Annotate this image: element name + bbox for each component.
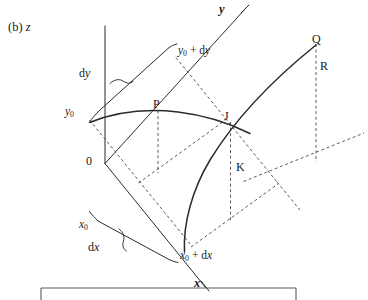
curve-through-J-Q <box>184 45 316 252</box>
dy-label: dy <box>79 67 90 79</box>
x-axis-label: x <box>194 277 200 290</box>
y-axis-label: y <box>219 3 225 16</box>
dx-brace <box>119 229 127 251</box>
y0-label: y0 <box>65 106 74 119</box>
dy-brace <box>110 80 133 84</box>
z-axis-label: z <box>26 20 31 34</box>
panel-tag: (b) z <box>8 21 31 34</box>
origin-label: 0 <box>86 155 92 167</box>
point-label-R: R <box>320 60 328 72</box>
grid-line-y0-xdir <box>90 120 192 245</box>
y0-plus-dy-tail: + dy <box>187 44 210 56</box>
x-axis-end-tick <box>201 281 209 291</box>
dimension-braces <box>110 80 133 251</box>
grid-line-y0dy-xdir-ext <box>277 182 300 210</box>
y-axis-end-tick <box>241 5 249 13</box>
base-plane-grid <box>90 58 365 248</box>
x0-plus-dx-tail: + dx <box>189 249 212 261</box>
point-label-K: K <box>236 161 245 173</box>
point-label-J: J <box>224 110 229 122</box>
y0-plus-dy-label: y0 + dy <box>178 45 210 58</box>
x0-label: x0 <box>79 219 88 232</box>
point-label-Q: Q <box>312 33 321 45</box>
grid-line-right-ydir <box>244 133 365 182</box>
bottom-frame-rect <box>41 288 296 300</box>
x-axis-line <box>105 164 206 289</box>
axis-lines <box>105 8 246 288</box>
grid-line-x0-ydir <box>139 120 226 183</box>
point-label-P: P <box>153 98 160 110</box>
bottom-frame <box>41 288 296 300</box>
surface-curves <box>90 45 317 252</box>
offset-parallel-lines <box>90 44 179 263</box>
dx-label: dx <box>88 241 99 253</box>
grid-line-x0dx-ydir <box>191 184 278 247</box>
x0-plus-dx-label: x0 + dx <box>180 250 212 263</box>
